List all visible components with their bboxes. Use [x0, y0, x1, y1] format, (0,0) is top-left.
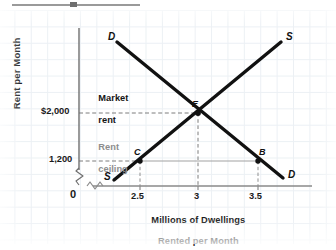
supply-curve-label-top: S — [286, 31, 293, 42]
point-E — [195, 110, 201, 116]
origin-label: 0 — [70, 188, 76, 200]
market-rent-annotation: Market rent — [88, 82, 128, 138]
y-axis-break — [76, 168, 83, 185]
demand-curve-label-bottom: D — [288, 169, 295, 180]
x-tick-label-3: 3 — [194, 191, 199, 201]
rent-ceiling-line1: Rent — [98, 142, 119, 152]
market-rent-line1: Market — [98, 93, 128, 103]
point-label-E: E — [192, 99, 198, 109]
point-B — [255, 158, 260, 163]
point-label-B: B — [259, 147, 266, 157]
x-axis-title-line1: Millions of Dwellings — [151, 215, 245, 225]
demand-curve-label-top: D — [108, 31, 115, 42]
y-tick-label-1200: 1,200 — [49, 154, 72, 164]
point-label-C: C — [134, 147, 141, 157]
point-C — [137, 158, 142, 163]
rent-ceiling-line2: ceiling — [98, 164, 127, 174]
supply-curve-label-bottom: S — [104, 171, 111, 182]
x-axis-title: Millions of Dwellings Rented per Month — [118, 205, 268, 250]
x-tick-label-3p5: 3.5 — [249, 191, 262, 201]
x-tick-label-2p5: 2.5 — [131, 191, 144, 201]
x-axis-title-line2: Rented per Month — [158, 236, 239, 246]
market-rent-line2: rent — [98, 115, 116, 125]
y-tick-label-2000: $2,000 — [41, 106, 69, 116]
y-axis-title: Rent per Month — [12, 28, 23, 118]
